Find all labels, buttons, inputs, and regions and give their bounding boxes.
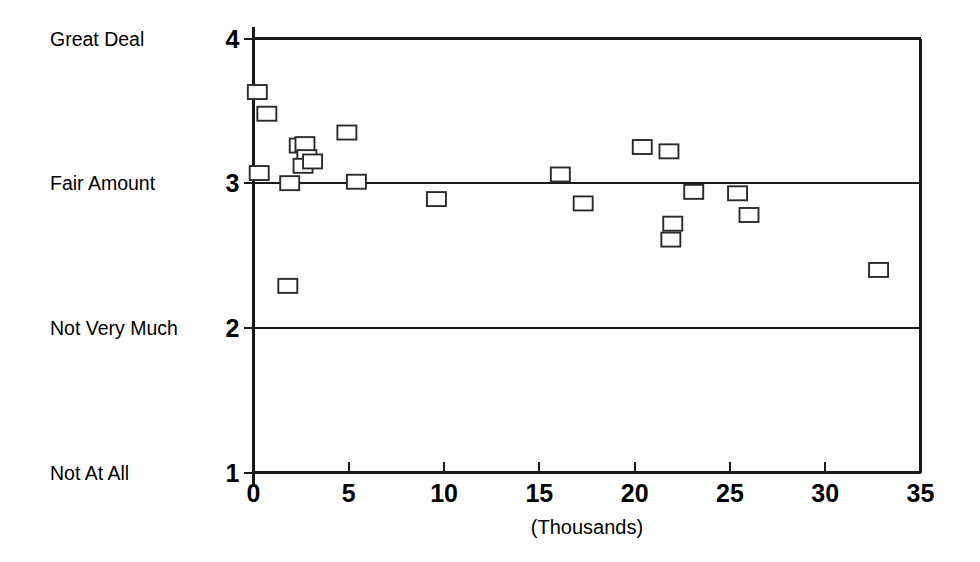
x-tick-label: 20 xyxy=(621,479,649,507)
y-category-label: Not Very Much xyxy=(50,317,178,339)
data-point-marker xyxy=(574,196,593,210)
axes-group xyxy=(254,27,921,487)
data-point-marker xyxy=(633,140,652,154)
data-point-marker xyxy=(347,175,366,189)
data-point-marker xyxy=(728,186,747,200)
x-tick-label: 35 xyxy=(907,479,935,507)
y-tick-label: 3 xyxy=(226,169,240,197)
data-point-marker xyxy=(661,233,680,247)
y-category-label: Not At All xyxy=(50,462,129,484)
data-point-marker xyxy=(739,208,758,222)
y-category-label: Fair Amount xyxy=(50,172,156,194)
y-tick-labels-group: 1234 xyxy=(226,25,240,487)
data-point-marker xyxy=(303,154,322,168)
x-tick-label: 0 xyxy=(247,479,261,507)
tick-marks-group xyxy=(244,39,921,473)
data-point-marker xyxy=(551,167,570,181)
x-tick-label: 30 xyxy=(811,479,839,507)
data-point-marker xyxy=(337,126,356,140)
data-point-marker xyxy=(663,217,682,231)
data-point-marker xyxy=(659,144,678,158)
y-category-labels-group: Great DealFair AmountNot Very MuchNot At… xyxy=(50,28,178,484)
data-point-marker xyxy=(427,192,446,206)
x-tick-label: 15 xyxy=(525,479,553,507)
y-tick-label: 2 xyxy=(226,314,240,342)
x-axis-title-group: (Thousands) xyxy=(531,516,643,538)
data-point-marker xyxy=(250,166,269,180)
plot-canvas: Great DealFair AmountNot Very MuchNot At… xyxy=(0,0,980,562)
data-point-marker xyxy=(295,137,314,151)
x-tick-label: 25 xyxy=(716,479,744,507)
x-tick-labels-group: 05101520253035 xyxy=(247,479,935,507)
data-point-marker xyxy=(278,279,297,293)
scatter-chart: Great DealFair AmountNot Very MuchNot At… xyxy=(0,0,980,562)
data-points-group xyxy=(248,85,888,293)
x-tick-label: 5 xyxy=(342,479,356,507)
y-tick-label: 4 xyxy=(226,25,240,53)
data-point-marker xyxy=(257,107,276,121)
y-tick-label: 1 xyxy=(226,459,240,487)
y-category-label: Great Deal xyxy=(50,28,144,50)
x-axis-title: (Thousands) xyxy=(531,516,643,538)
data-point-marker xyxy=(684,185,703,199)
data-point-marker xyxy=(869,263,888,277)
data-point-marker xyxy=(248,85,267,99)
data-point-marker xyxy=(280,176,299,190)
x-tick-label: 10 xyxy=(430,479,458,507)
